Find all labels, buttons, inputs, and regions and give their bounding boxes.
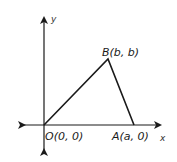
triangle-oba [44, 59, 134, 125]
coordinate-diagram: y x B(b, b) O(0, 0) A(a, 0) [0, 0, 177, 162]
y-axis-label: y [50, 14, 57, 24]
point-b-label: B(b, b) [102, 46, 139, 59]
point-o-label: O(0, 0) [45, 130, 83, 143]
point-a-label: A(a, 0) [111, 130, 149, 143]
x-axis-label: x [159, 133, 166, 143]
